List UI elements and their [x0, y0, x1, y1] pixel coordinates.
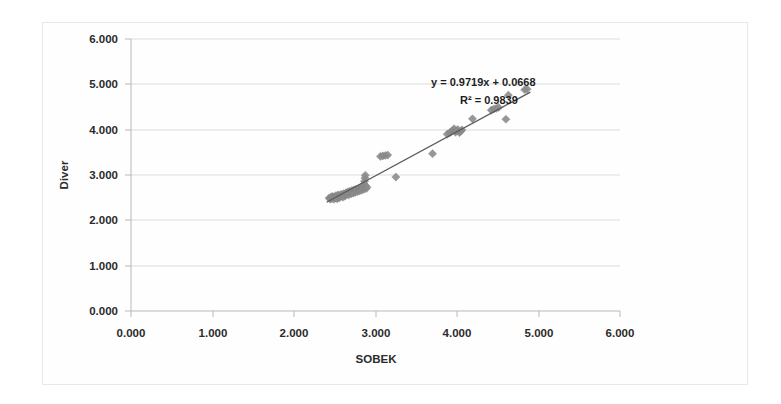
regression-equation-label: y = 0.9719x + 0.0668 — [431, 76, 536, 88]
x-tick-label-0: 0.000 — [117, 327, 146, 339]
y-axis-title: Diver — [58, 160, 70, 189]
trendline-path — [327, 92, 531, 202]
y-tick-marks — [125, 39, 131, 311]
r-squared-label: R² = 0.9839 — [460, 94, 518, 106]
x-axis-title: SOBEK — [356, 353, 398, 365]
x-tick-label-5: 5.000 — [525, 327, 554, 339]
data-point-marker — [392, 173, 400, 181]
x-tick-marks — [131, 311, 620, 317]
y-tick-label-6: 6.000 — [89, 33, 118, 45]
y-tick-label-3: 3.000 — [89, 169, 118, 181]
scatter-plot: 6.000 5.000 4.000 3.000 2.000 1.000 0.00… — [0, 0, 781, 404]
y-tick-label-4: 4.000 — [89, 124, 118, 136]
chart-figure: 6.000 5.000 4.000 3.000 2.000 1.000 0.00… — [0, 0, 781, 404]
y-tick-label-5: 5.000 — [89, 78, 118, 90]
x-tick-label-2: 2.000 — [280, 327, 309, 339]
x-tick-labels: 0.000 1.000 2.000 3.000 4.000 5.000 6.00… — [117, 327, 635, 339]
data-point-marker — [428, 150, 436, 158]
gridlines-horizontal — [131, 39, 620, 266]
x-tick-label-4: 4.000 — [443, 327, 472, 339]
x-tick-label-6: 6.000 — [606, 327, 635, 339]
y-tick-label-2: 2.000 — [89, 214, 118, 226]
data-point-marker — [502, 115, 510, 123]
x-tick-label-3: 3.000 — [362, 327, 391, 339]
y-tick-label-1: 1.000 — [89, 260, 118, 272]
y-tick-labels: 6.000 5.000 4.000 3.000 2.000 1.000 0.00… — [89, 33, 118, 317]
trendline — [327, 92, 531, 202]
x-tick-label-1: 1.000 — [199, 327, 228, 339]
y-tick-label-0: 0.000 — [89, 305, 118, 317]
